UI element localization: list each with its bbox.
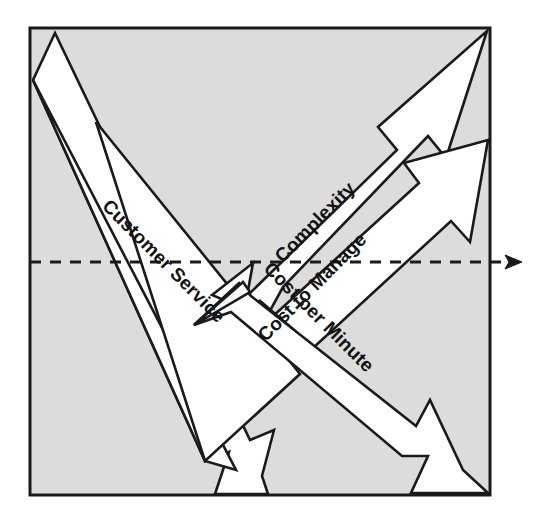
diagram-root: Complexity Cost to Manage Cost per Minut…: [0, 0, 540, 524]
horizontal-axis-arrowhead: [505, 255, 522, 269]
arrow-diagram-canvas: Complexity Cost to Manage Cost per Minut…: [0, 0, 540, 524]
